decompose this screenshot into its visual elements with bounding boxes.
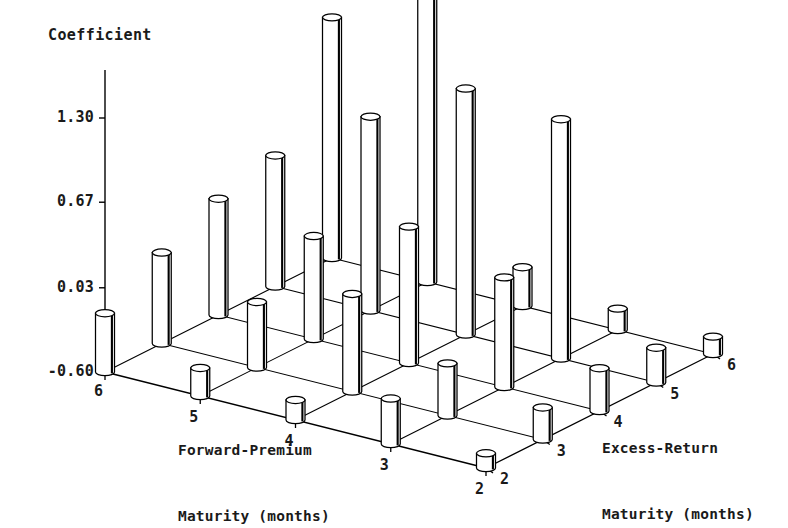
x-tick-label: 2: [475, 480, 484, 498]
y-tick-label: 2: [500, 470, 509, 488]
bar-fp5-er3: [248, 298, 267, 371]
bar-fp6-er4: [209, 195, 228, 319]
bar-fp4-er3: [343, 290, 362, 395]
z-tick-label: 1.30: [22, 108, 94, 126]
x-axis-title-line2: Maturity (months): [178, 505, 330, 527]
bar-fp2-er3: [533, 404, 552, 443]
x-tick-label: 3: [380, 456, 389, 474]
bar-fp6-er6: [323, 14, 342, 262]
x-tick-label: 6: [94, 382, 103, 400]
bar-fp5-er6: [418, 0, 437, 286]
bar-fp3-er3: [438, 360, 457, 419]
y-axis-title-line1: Excess-Return: [602, 437, 754, 459]
bar-fp5-er5: [361, 113, 380, 314]
y-axis-title-line2: Maturity (months): [602, 503, 754, 525]
bar-fp6-er2: [96, 310, 115, 376]
bar-fp3-er5: [552, 116, 571, 362]
bar-fp4-er4: [400, 223, 419, 367]
bar-fp3-er4: [495, 274, 514, 391]
bar-fp2-er6: [704, 333, 723, 358]
bar-fp6-er5: [266, 152, 285, 290]
bar-fp2-er2: [477, 450, 496, 472]
x-axis-title-line1: Forward-Premium: [178, 439, 330, 461]
z-axis-title: Coefficient: [48, 26, 152, 44]
z-tick-label: 0.67: [22, 192, 94, 210]
y-tick-label: 3: [557, 442, 566, 460]
z-tick-label: 0.03: [22, 278, 94, 296]
y-tick-label: 6: [727, 356, 736, 374]
y-axis-title: Excess-Return Maturity (months): [602, 393, 754, 528]
bar-fp4-er6: [513, 264, 532, 310]
bar-fp3-er2: [381, 395, 400, 448]
x-axis-title: Forward-Premium Maturity (months): [178, 395, 330, 528]
bar-fp5-er4: [304, 232, 323, 342]
z-tick-label: -0.60: [22, 362, 94, 380]
bar-fp4-er5: [456, 85, 475, 338]
bar-fp2-er5: [647, 344, 666, 386]
bar-fp6-er3: [152, 249, 171, 347]
bar-fp3-er6: [608, 305, 627, 334]
